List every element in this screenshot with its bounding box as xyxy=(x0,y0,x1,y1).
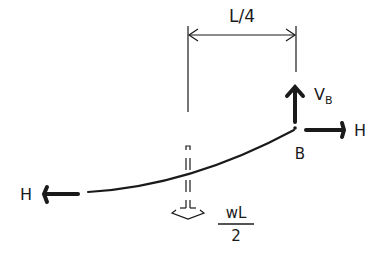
horizontal-left-label: H xyxy=(20,185,32,204)
svg-text:2: 2 xyxy=(231,227,241,245)
horizontal-right-label: H xyxy=(354,121,366,140)
horizontal-right-arrow-icon xyxy=(306,123,344,137)
vertical-reaction-label: VB xyxy=(314,85,333,107)
cable-curve xyxy=(88,130,294,192)
point-b-marker xyxy=(293,126,297,130)
horizontal-left-arrow-icon xyxy=(44,187,78,202)
svg-text:wL: wL xyxy=(226,204,247,222)
load-resultant-label: wL 2 xyxy=(218,204,254,245)
dimension-label: L/4 xyxy=(229,6,255,26)
vertical-reaction-arrow-icon xyxy=(287,87,303,122)
point-b-label: B xyxy=(295,145,305,163)
cable-free-body-diagram: L/4 B VB H H wL 2 xyxy=(0,0,386,254)
dimension-line xyxy=(189,29,295,41)
distributed-load-resultant-arrow-icon xyxy=(172,146,204,219)
